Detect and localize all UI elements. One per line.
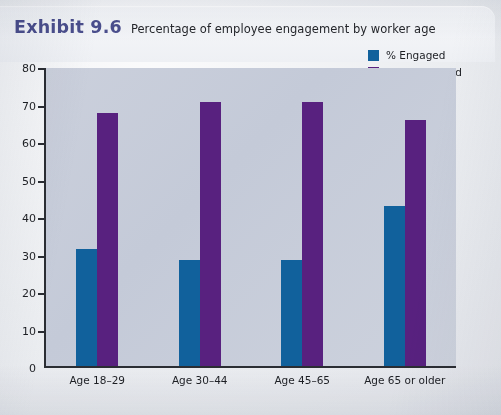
y-tick-label-10: 10 [22, 325, 36, 336]
y-tick-mark-40 [38, 218, 44, 220]
y-tick-mark-50 [38, 181, 44, 183]
y-tick-label-50: 50 [22, 175, 36, 186]
y-tick-mark-70 [38, 106, 44, 108]
x-axis-label: Age 45–65 [251, 374, 354, 386]
exhibit-subtitle: Percentage of employee engagement by wor… [131, 22, 436, 36]
y-tick-mark-80 [38, 68, 44, 70]
bar-engaged[interactable] [76, 249, 97, 366]
bar-group [354, 68, 457, 366]
bar-engaged[interactable] [179, 260, 200, 366]
y-tick-label-60: 60 [22, 138, 36, 149]
bar-disengaged[interactable] [302, 102, 323, 366]
bar-groups [46, 68, 456, 366]
bar-group [46, 68, 149, 366]
legend-swatch-engaged [368, 50, 379, 61]
bar-disengaged[interactable] [405, 120, 426, 366]
y-tick-label-70: 70 [22, 100, 36, 111]
y-tick-label-30: 30 [22, 250, 36, 261]
y-tick-mark-60 [38, 143, 44, 145]
x-axis-label: Age 30–44 [149, 374, 252, 386]
y-tick-mark-10 [38, 331, 44, 333]
y-tick-mark-20 [38, 293, 44, 295]
legend-label-engaged: % Engaged [386, 49, 446, 61]
bar-disengaged[interactable] [97, 113, 118, 366]
exhibit-figure: Exhibit 9.6 Percentage of employee engag… [0, 0, 501, 415]
exhibit-title-row: Exhibit 9.6 Percentage of employee engag… [14, 17, 436, 37]
x-axis-label: Age 18–29 [46, 374, 149, 386]
plot-wrapper: 80706050403020100 [44, 68, 456, 368]
bar-group [251, 68, 354, 366]
x-axis-label: Age 65 or older [354, 374, 457, 386]
y-tick-label-0: 0 [29, 363, 36, 374]
bar-engaged[interactable] [384, 206, 405, 366]
bar-disengaged[interactable] [200, 102, 221, 366]
exhibit-number-label: Exhibit 9.6 [14, 17, 122, 37]
x-axis-category-labels: Age 18–29Age 30–44Age 45–65Age 65 or old… [46, 374, 456, 386]
bar-group [149, 68, 252, 366]
y-tick-label-40: 40 [22, 213, 36, 224]
bar-engaged[interactable] [281, 260, 302, 366]
y-tick-label-80: 80 [22, 63, 36, 74]
y-tick-label-20: 20 [22, 288, 36, 299]
y-tick-mark-30 [38, 256, 44, 258]
legend-item-engaged: % Engaged [368, 49, 462, 61]
